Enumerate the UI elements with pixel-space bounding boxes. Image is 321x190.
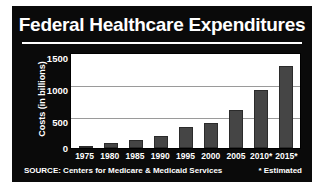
x-tick-2010-est: 2010* (249, 151, 273, 161)
bar-1985 (129, 140, 143, 148)
bar-2010-est (254, 90, 268, 148)
bar-2000 (204, 123, 218, 148)
estimated-note: * Estimated (258, 166, 302, 175)
x-tick-1985: 1985 (123, 151, 147, 161)
bar-1995 (179, 127, 193, 148)
y-tick-1000: 1000 (28, 86, 68, 96)
x-tick-1995: 1995 (173, 151, 197, 161)
bar-2005 (229, 110, 243, 148)
x-tick-1975: 1975 (73, 151, 97, 161)
bar-1980 (104, 143, 118, 148)
y-tick-0: 0 (28, 144, 68, 154)
x-tick-2015-est: 2015* (274, 151, 298, 161)
chart-panel: Federal Healthcare Expenditures Costs (i… (12, 6, 312, 182)
x-tick-2005: 2005 (224, 151, 248, 161)
bar-1990 (154, 136, 168, 148)
bar-series (71, 54, 300, 148)
x-tick-1990: 1990 (148, 151, 172, 161)
source-note: SOURCE: Centers for Medicare & Medicaid … (24, 166, 222, 175)
y-tick-500: 500 (28, 118, 68, 128)
x-tick-2000: 2000 (199, 151, 223, 161)
y-axis-ticks: 1500 1000 500 0 (26, 6, 68, 182)
y-tick-1500: 1500 (28, 54, 68, 64)
plot-area (70, 53, 301, 149)
x-tick-1980: 1980 (98, 151, 122, 161)
bar-1975 (79, 146, 93, 148)
chart-figure: Federal Healthcare Expenditures Costs (i… (0, 0, 321, 190)
x-axis-ticks: 19751980198519901995200020052010*2015* (70, 151, 301, 161)
bar-2015-est (279, 66, 293, 148)
